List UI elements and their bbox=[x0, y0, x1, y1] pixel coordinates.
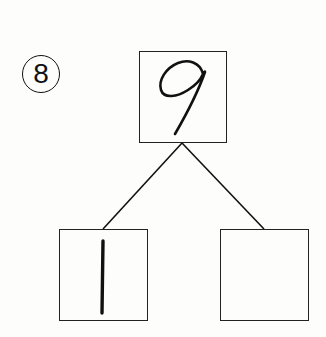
connector-right bbox=[182, 143, 264, 229]
part-box-right-empty[interactable] bbox=[220, 229, 309, 321]
worksheet-problem: 8 9 1 bbox=[0, 0, 326, 337]
part-right-value bbox=[221, 230, 222, 231]
part-left-value: 1 bbox=[60, 230, 61, 231]
whole-box[interactable]: 9 bbox=[139, 51, 227, 143]
connector-left bbox=[103, 143, 182, 229]
whole-value: 9 bbox=[140, 52, 141, 53]
part-box-left[interactable]: 1 bbox=[59, 229, 148, 321]
